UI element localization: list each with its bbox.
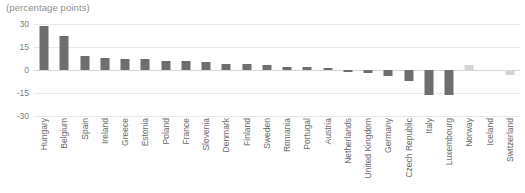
x-axis-category-label: Estonia (141, 118, 150, 146)
bar[interactable] (181, 61, 190, 70)
bar-slot (196, 24, 216, 116)
x-label-slot: United Kingdom (358, 118, 378, 193)
bar[interactable] (242, 64, 251, 70)
x-label-slot: Ireland (95, 118, 115, 193)
bar[interactable] (384, 70, 393, 76)
x-axis-category-label: Poland (161, 118, 170, 144)
x-axis-category-label: Sweden (263, 118, 272, 149)
bar[interactable] (323, 68, 332, 70)
bar[interactable] (161, 61, 170, 70)
x-axis-category-label: Netherlands (344, 118, 353, 164)
x-axis-category-label: Iceland (485, 118, 494, 145)
bar[interactable] (424, 70, 433, 95)
y-axis-tick-label: 0 (24, 65, 29, 75)
x-axis-category-label: Slovenia (202, 118, 211, 151)
x-axis-category-label: Hungary (40, 118, 49, 150)
x-axis-category-label: Denmark (222, 118, 231, 152)
bar[interactable] (505, 70, 514, 75)
x-label-slot: Czech Republic (399, 118, 419, 193)
x-label-slot: Slovenia (196, 118, 216, 193)
bar[interactable] (100, 58, 109, 70)
bar[interactable] (262, 65, 271, 70)
x-axis-category-label: Belgium (60, 118, 69, 149)
bar[interactable] (283, 67, 292, 70)
x-label-slot: Estonia (135, 118, 155, 193)
bar-slot (419, 24, 439, 116)
x-label-slot: Luxembourg (439, 118, 459, 193)
bar[interactable] (343, 70, 352, 72)
bar-slot (216, 24, 236, 116)
bar[interactable] (202, 62, 211, 70)
x-label-slot: Romania (277, 118, 297, 193)
x-label-slot: Sweden (257, 118, 277, 193)
bar[interactable] (141, 59, 150, 70)
x-label-slot: Norway (459, 118, 479, 193)
bar-slot (439, 24, 459, 116)
bar[interactable] (445, 70, 454, 95)
x-axis-category-label: Austria (323, 118, 332, 144)
x-axis-category-label: Norway (465, 118, 474, 147)
bar[interactable] (121, 59, 130, 70)
bar-slot (297, 24, 317, 116)
bar-slot (480, 24, 500, 116)
x-label-slot: Iceland (480, 118, 500, 193)
bar-slot (237, 24, 257, 116)
y-axis-tick-label: 30 (20, 19, 29, 29)
bar-slot (75, 24, 95, 116)
x-axis-category-label: United Kingdom (364, 118, 373, 178)
x-axis-category-label: Romania (283, 118, 292, 152)
bar[interactable] (465, 65, 474, 70)
x-label-slot: Poland (156, 118, 176, 193)
x-label-slot: Spain (75, 118, 95, 193)
bar[interactable] (303, 67, 312, 70)
y-axis-tick-label: -30 (17, 111, 29, 121)
x-label-slot: Switzerland (500, 118, 520, 193)
bar[interactable] (404, 70, 413, 81)
x-label-slot: Denmark (216, 118, 236, 193)
x-axis-category-label: Czech Republic (404, 118, 413, 178)
bar-slot (34, 24, 54, 116)
bar-slot (500, 24, 520, 116)
bar-slot (459, 24, 479, 116)
bar[interactable] (364, 70, 373, 73)
bar-slot (135, 24, 155, 116)
bar[interactable] (80, 56, 89, 70)
bar-chart: (percentage points) 30150-15-30 HungaryB… (0, 0, 525, 193)
bar[interactable] (40, 26, 49, 70)
x-label-slot: Austria (318, 118, 338, 193)
x-axis-category-label: Luxembourg (445, 118, 454, 165)
x-axis-category-label: Switzerland (506, 118, 515, 162)
chart-title: (percentage points) (6, 2, 90, 13)
x-label-slot: Hungary (34, 118, 54, 193)
x-axis-category-label: Spain (80, 118, 89, 140)
bar-slot (277, 24, 297, 116)
bar[interactable] (60, 36, 69, 70)
bar-slot (338, 24, 358, 116)
bars-container (34, 24, 520, 116)
x-label-slot: Germany (378, 118, 398, 193)
bar-slot (358, 24, 378, 116)
x-label-slot: France (176, 118, 196, 193)
x-axis-category-label: France (182, 118, 191, 144)
y-axis-tick-label: -15 (17, 88, 29, 98)
bar-slot (54, 24, 74, 116)
x-label-slot: Italy (419, 118, 439, 193)
bar-slot (378, 24, 398, 116)
x-label-slot: Finland (237, 118, 257, 193)
y-axis-tick-label: 15 (20, 42, 29, 52)
x-label-slot: Belgium (54, 118, 74, 193)
gridline: -30 (34, 116, 520, 117)
x-label-slot: Portugal (297, 118, 317, 193)
bar-slot (95, 24, 115, 116)
x-axis-category-label: Greece (121, 118, 130, 146)
x-axis-category-label: Ireland (101, 118, 110, 144)
bar-slot (176, 24, 196, 116)
x-axis-category-label: Portugal (303, 118, 312, 150)
bar-slot (318, 24, 338, 116)
bar-slot (257, 24, 277, 116)
x-axis-category-label: Italy (425, 118, 434, 134)
x-label-slot: Netherlands (338, 118, 358, 193)
bar-slot (399, 24, 419, 116)
bar[interactable] (222, 64, 231, 70)
x-axis-category-label: Germany (384, 118, 393, 153)
